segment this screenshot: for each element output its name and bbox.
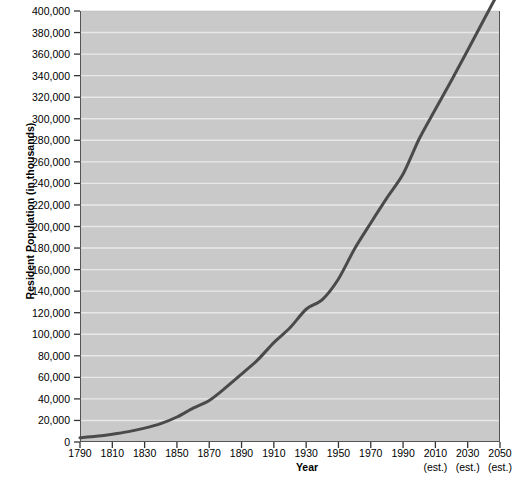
x-tick-label: 2050 (477, 447, 516, 459)
y-tick-label: 60,000 (6, 371, 70, 383)
y-tick-label: 340,000 (6, 70, 70, 82)
y-tick-label: 200,000 (6, 221, 70, 233)
y-tick-label: 40,000 (6, 393, 70, 405)
x-tick-estimate-note: (est.) (477, 461, 516, 473)
y-tick-label: 380,000 (6, 27, 70, 39)
y-tick-label: 320,000 (6, 91, 70, 103)
y-tick-label: 400,000 (6, 5, 70, 17)
y-tick-label: 140,000 (6, 285, 70, 297)
y-tick-label: 360,000 (6, 48, 70, 60)
y-tick-label: 220,000 (6, 199, 70, 211)
population-data-line (80, 0, 500, 438)
y-tick-label: 80,000 (6, 350, 70, 362)
y-tick-marks-group (74, 11, 80, 442)
y-axis-title: Resident Population (in thousands) (24, 86, 36, 336)
y-tick-label: 120,000 (6, 307, 70, 319)
y-tick-label: 20,000 (6, 414, 70, 426)
y-tick-label: 100,000 (6, 328, 70, 340)
y-tick-label: 160,000 (6, 264, 70, 276)
y-tick-label: 240,000 (6, 177, 70, 189)
y-tick-label: 260,000 (6, 156, 70, 168)
y-tick-label: 180,000 (6, 242, 70, 254)
gridlines-group (81, 11, 499, 420)
y-tick-label: 280,000 (6, 134, 70, 146)
y-tick-label: 300,000 (6, 113, 70, 125)
x-axis-title: Year (262, 461, 352, 473)
